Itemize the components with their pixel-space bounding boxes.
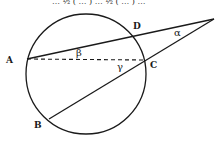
top-caption-partial: … ½ ( … ) … ½ ( … ) … [52, 0, 145, 6]
chord-AC-dashed [27, 59, 145, 60]
angle-gamma: γ [117, 61, 123, 72]
angle-beta: β [76, 47, 82, 58]
geometry-diagram: … ½ ( … ) … ½ ( … ) … A B C D α β γ [0, 0, 223, 141]
circle [26, 14, 146, 134]
label-B: B [34, 120, 42, 130]
angle-alpha: α [174, 27, 181, 38]
label-C: C [150, 60, 157, 70]
label-D: D [133, 21, 141, 31]
label-A: A [5, 55, 14, 65]
